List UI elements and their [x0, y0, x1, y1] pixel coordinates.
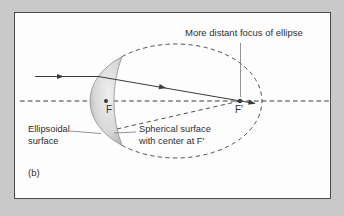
refracted-ray-end-arrowhead: [248, 100, 255, 105]
panel-label: (b): [28, 167, 40, 179]
focus-F-dot: [104, 99, 108, 103]
refracted-ray: [98, 77, 255, 104]
focus-F-prime-label: F′: [231, 104, 247, 116]
ellipsoidal-surface-label-line1: Ellipsoidal: [28, 123, 70, 135]
refracted-ray-mid-arrowhead: [159, 84, 166, 89]
spherical-surface-label-line1: Spherical surface: [139, 123, 211, 135]
ellipsoidal-leader-line: [70, 131, 101, 134]
figure-panel-b: More distant focus of ellipse Ellipsoida…: [0, 0, 344, 216]
focus-F-prime-dot: [238, 99, 242, 103]
ellipsoidal-surface-label-line2: surface: [28, 135, 70, 147]
spherical-surface-label: Spherical surface with center at F′: [139, 123, 211, 147]
ellipsoidal-surface-label: Ellipsoidal surface: [28, 123, 70, 147]
spherical-surface-label-line2: with center at F′: [139, 135, 211, 147]
incident-ray-arrowhead: [57, 74, 64, 79]
focus-F-label: F: [101, 104, 117, 116]
distant-focus-label: More distant focus of ellipse: [185, 27, 303, 39]
